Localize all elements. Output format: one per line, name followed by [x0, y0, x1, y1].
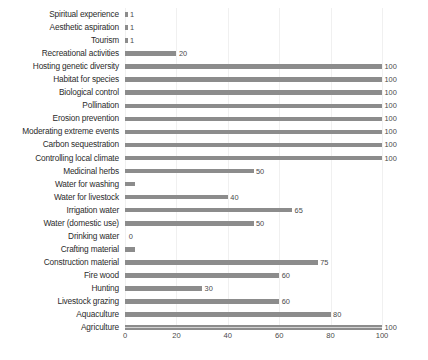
- chart-bar-row: Aesthetic aspiration1: [0, 21, 428, 34]
- bar-value-label: 1: [128, 8, 135, 21]
- bar: [125, 299, 279, 304]
- bar: [125, 169, 254, 174]
- bar: [125, 143, 382, 148]
- bar: [125, 156, 382, 161]
- chart-bar-row: Crafting material: [0, 243, 428, 256]
- bar-track: 100: [125, 138, 382, 151]
- category-label: Hosting genetic diversity: [0, 60, 119, 73]
- bar-value-label: 50: [254, 165, 265, 178]
- chart-bar-row: Pollination100: [0, 99, 428, 112]
- bar-track: 100: [125, 73, 382, 86]
- chart-bar-row: Water for livestock40: [0, 191, 428, 204]
- bar: [125, 182, 135, 187]
- bar-track: 1: [125, 21, 382, 34]
- bar-track: 60: [125, 269, 382, 282]
- x-axis-tick-label: 20: [172, 331, 180, 340]
- category-label: Hunting: [0, 282, 119, 295]
- bar-value-label: 100: [382, 152, 397, 165]
- bar: [125, 260, 318, 265]
- category-label: Drinking water: [0, 230, 119, 243]
- bar-value-label: 50: [254, 217, 265, 230]
- horizontal-bar-chart: Spiritual experience1Aesthetic aspiratio…: [0, 0, 428, 360]
- chart-bar-row: Hunting30: [0, 282, 428, 295]
- bar-value-label: 40: [228, 191, 239, 204]
- chart-bar-row: Fire wood60: [0, 269, 428, 282]
- bar-value-label: 1: [128, 21, 135, 34]
- bar-track: 100: [125, 99, 382, 112]
- category-label: Irrigation water: [0, 204, 119, 217]
- category-label: Water for livestock: [0, 191, 119, 204]
- category-label: Habitat for species: [0, 73, 119, 86]
- category-label: Recreational activities: [0, 47, 119, 60]
- category-label: Biological control: [0, 86, 119, 99]
- chart-bar-row: Controlling local climate100: [0, 152, 428, 165]
- chart-bar-row: Water (domestic use)50: [0, 217, 428, 230]
- category-label: Water (domestic use): [0, 217, 119, 230]
- chart-bar-row: Drinking water0: [0, 230, 428, 243]
- bar: [125, 312, 331, 317]
- chart-bar-row: Water for washing: [0, 178, 428, 191]
- chart-bar-row: Tourism1: [0, 34, 428, 47]
- bar: [125, 130, 382, 135]
- bar-track: 0: [125, 230, 382, 243]
- category-label: Erosion prevention: [0, 112, 119, 125]
- bar-value-label: 80: [331, 308, 342, 321]
- chart-bar-row: Hosting genetic diversity100: [0, 60, 428, 73]
- category-label: Tourism: [0, 34, 119, 47]
- chart-bar-row: Biological control100: [0, 86, 428, 99]
- bar-track: 100: [125, 125, 382, 138]
- bar-value-label: 100: [382, 112, 397, 125]
- bar-track: 40: [125, 191, 382, 204]
- chart-bar-row: Construction material75: [0, 256, 428, 269]
- category-label: Aquaculture: [0, 308, 119, 321]
- category-label: Water for washing: [0, 178, 119, 191]
- category-label: Agriculture: [0, 321, 119, 334]
- x-axis-tick-label: 100: [376, 331, 389, 340]
- bar-track: 20: [125, 47, 382, 60]
- bar-track: 65: [125, 204, 382, 217]
- category-label: Controlling local climate: [0, 152, 119, 165]
- bar-track: [125, 178, 382, 191]
- bar-value-label: 100: [382, 60, 397, 73]
- bar-value-label: 100: [382, 138, 397, 151]
- chart-bar-row: Irrigation water65: [0, 204, 428, 217]
- bar-value-label: 100: [382, 99, 397, 112]
- category-label: Aesthetic aspiration: [0, 21, 119, 34]
- chart-bar-row: Habitat for species100: [0, 73, 428, 86]
- bar: [125, 286, 202, 291]
- bar-value-label: 1: [128, 34, 135, 47]
- bar-track: [125, 243, 382, 256]
- bar-value-label: 100: [382, 73, 397, 86]
- bar-value-label: 20: [176, 47, 187, 60]
- bar: [125, 247, 135, 252]
- bar-track: 100: [125, 60, 382, 73]
- category-label: Moderating extreme events: [0, 125, 119, 138]
- bar: [125, 64, 382, 69]
- category-label: Carbon sequestration: [0, 138, 119, 151]
- chart-bar-row: Moderating extreme events100: [0, 125, 428, 138]
- bar-value-label: 65: [292, 204, 303, 217]
- bar-track: 80: [125, 308, 382, 321]
- bar: [125, 273, 279, 278]
- category-label: Pollination: [0, 99, 119, 112]
- bar-track: 100: [125, 112, 382, 125]
- bar-value-label: 60: [279, 295, 290, 308]
- category-label: Livestock grazing: [0, 295, 119, 308]
- x-axis-tick-label: 40: [224, 331, 232, 340]
- bar-track: 60: [125, 295, 382, 308]
- bar-value-label: 100: [382, 125, 397, 138]
- bar-track: 100: [125, 86, 382, 99]
- bar: [125, 221, 254, 226]
- bar: [125, 117, 382, 122]
- bar-track: 1: [125, 34, 382, 47]
- bar: [125, 104, 382, 109]
- bar-track: 100: [125, 152, 382, 165]
- bar-value-label: 75: [318, 256, 329, 269]
- category-label: Spiritual experience: [0, 8, 119, 21]
- chart-bar-row: Carbon sequestration100: [0, 138, 428, 151]
- bar-track: 50: [125, 165, 382, 178]
- x-axis: 020406080100: [125, 327, 382, 353]
- bar-value-label: 30: [202, 282, 213, 295]
- bar-track: 50: [125, 217, 382, 230]
- bar-track: 75: [125, 256, 382, 269]
